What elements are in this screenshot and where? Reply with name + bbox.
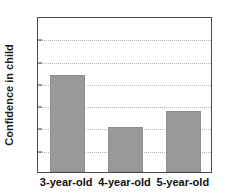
y-axis-tick-mark [38,129,42,130]
x-axis-tick-label: 3-year-old [40,176,93,188]
y-axis-tick-mark [38,62,42,63]
y-axis-title: Confidence in child [2,14,16,176]
plot-area: 01234567 [37,17,212,173]
bar [50,75,85,172]
y-axis-tick-mark [38,151,42,152]
y-axis-tick-mark [38,84,42,85]
y-axis-tick-mark [38,40,42,41]
x-axis-tick-label: 4-year-old [98,176,151,188]
bar-chart-figure: Confidence in child 01234567 3-year-old4… [0,0,226,196]
gridline [38,40,211,41]
gridline [38,63,211,64]
bar [166,111,201,172]
bar [108,127,143,172]
y-axis-tick-mark [38,107,42,108]
x-axis-tick-label: 5-year-old [157,176,210,188]
